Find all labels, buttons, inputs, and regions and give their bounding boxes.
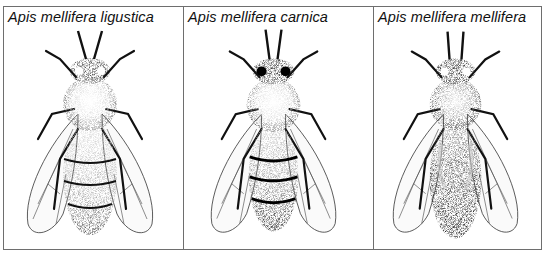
figure-frame: Apis mellifera ligustica Apis mellifera … (3, 6, 542, 250)
bee-illustration-carnica (184, 29, 373, 249)
panel-label: Apis mellifera ligustica (8, 9, 154, 25)
panel-mellifera: Apis mellifera mellifera (373, 7, 541, 249)
panel-label: Apis mellifera carnica (188, 9, 328, 25)
panel-carnica: Apis mellifera carnica (183, 7, 373, 249)
bee-illustration-ligustica (4, 29, 183, 249)
bee-illustration-mellifera (374, 29, 541, 249)
panel-label: Apis mellifera mellifera (378, 9, 526, 25)
panel-ligustica: Apis mellifera ligustica (4, 7, 183, 249)
